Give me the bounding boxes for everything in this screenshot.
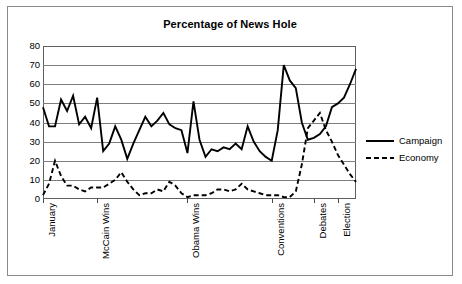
legend-swatch-dashed-icon <box>366 154 394 162</box>
y-tick-label: 20 <box>16 156 40 166</box>
plot-area <box>43 46 356 199</box>
y-tick-label: 50 <box>16 99 40 109</box>
x-axis-tick-labels: JanuaryMcCain WinsObama WinsConventionsD… <box>43 203 356 273</box>
x-tick-label: Conventions <box>276 203 286 256</box>
legend-item-economy: Economy <box>366 149 452 166</box>
legend-label-economy: Economy <box>399 152 439 163</box>
chart-figure: Percentage of News Hole 0102030405060708… <box>7 6 453 276</box>
x-tick-label: Election <box>342 203 352 237</box>
legend-item-campaign: Campaign <box>366 132 452 149</box>
series-line-campaign <box>43 65 356 161</box>
y-axis-tick-labels: 01020304050607080 <box>16 46 40 199</box>
y-tick-label: 60 <box>16 80 40 90</box>
x-tick-label: Obama Wins <box>191 203 201 258</box>
x-tick-label: January <box>47 203 57 237</box>
x-tick-label: Debates <box>318 203 328 238</box>
chart-legend: Campaign Economy <box>366 132 452 166</box>
y-tick-label: 10 <box>16 175 40 185</box>
y-tick-label: 30 <box>16 137 40 147</box>
chart-title: Percentage of News Hole <box>8 18 452 30</box>
legend-label-campaign: Campaign <box>399 135 442 146</box>
y-tick-label: 80 <box>16 41 40 51</box>
y-tick-label: 70 <box>16 60 40 70</box>
y-tick-label: 40 <box>16 118 40 128</box>
series-lines <box>43 46 356 199</box>
x-tick-label: McCain Wins <box>101 203 111 259</box>
legend-swatch-solid-icon <box>366 137 394 145</box>
y-tick-label: 0 <box>16 194 40 204</box>
